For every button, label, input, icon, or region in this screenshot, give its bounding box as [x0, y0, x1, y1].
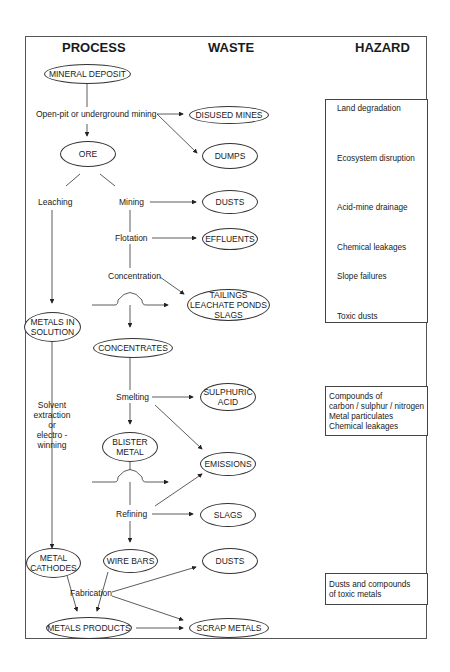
- hazard-ecosystem-disruption: Ecosystem disruption: [337, 154, 415, 164]
- node-dusts-1: DUSTS: [202, 190, 258, 214]
- node-scrap-metals: SCRAP METALS: [189, 618, 269, 638]
- node-emissions: EMISSIONS: [200, 452, 256, 476]
- hazard-compounds-2: carbon / sulphur / nitrogen: [329, 402, 424, 412]
- step-fabrication: Fabrication: [70, 588, 112, 598]
- node-disused-mines: DISUSED MINES: [189, 106, 269, 124]
- node-metals-products: METALS PRODUCTS: [46, 617, 132, 639]
- node-metal-cathodes: METALCATHODES: [26, 548, 81, 578]
- header-waste: WASTE: [208, 40, 254, 55]
- node-ore: ORE: [60, 141, 116, 167]
- node-mineral-deposit: MINERAL DEPOSIT: [44, 64, 131, 84]
- node-sulphuric-acid: SULPHURICACID: [200, 383, 256, 411]
- step-smelting: Smelting: [116, 392, 149, 402]
- hazard-chemical-leakages: Chemical leakages: [337, 243, 406, 253]
- node-blister-metal: BLISTERMETAL: [102, 432, 158, 462]
- hazard-chemical-leakages-2: Chemical leakages: [329, 422, 398, 432]
- header-process: PROCESS: [62, 40, 126, 55]
- node-dumps: DUMPS: [202, 143, 258, 169]
- step-mining: Mining: [119, 197, 144, 207]
- node-concentrates: CONCENTRATES: [93, 338, 173, 358]
- hazard-dusts-compounds-2: of toxic metals: [329, 590, 381, 600]
- step-solvent-extraction: Solvent extraction or electro - winning: [33, 400, 71, 450]
- node-wire-bars: WIRE BARS: [103, 549, 158, 573]
- hazard-dusts-compounds-1: Dusts and compounds: [329, 580, 410, 590]
- hazard-toxic-dusts: Toxic dusts: [337, 312, 378, 322]
- node-effluents: EFFLUENTS: [202, 228, 258, 250]
- hazard-metal-particulates: Metal particulates: [329, 412, 393, 422]
- node-tailings: TAILINGSLEACHATE PONDSSLAGS: [187, 289, 270, 321]
- hazard-land-degradation: Land degradation: [337, 104, 401, 114]
- hazard-compounds-1: Compounds of: [329, 392, 382, 402]
- node-metals-in-solution: METALS INSOLUTION: [24, 312, 81, 342]
- step-leaching: Leaching: [38, 197, 73, 207]
- node-dusts-2: DUSTS: [202, 548, 258, 574]
- step-flotation: Flotation: [115, 233, 148, 243]
- step-concentration: Concentration: [108, 271, 161, 281]
- hazard-slope-failures: Slope failures: [337, 272, 387, 282]
- header-hazard: HAZARD: [355, 40, 410, 55]
- node-slags: SLAGS: [200, 503, 256, 527]
- hazard-acid-mine-drainage: Acid-mine drainage: [337, 203, 408, 213]
- step-mining-method: Open-pit or underground mining: [36, 109, 157, 119]
- step-refining: Refining: [116, 509, 147, 519]
